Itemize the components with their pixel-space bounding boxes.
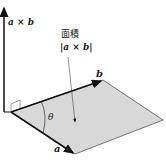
vector-b-label: b [96, 69, 103, 79]
area-title: 面積 [61, 30, 79, 39]
cross-product-diagram: a × b 面積 |a × b| b a θ [0, 0, 166, 167]
vector-a-label: a [54, 144, 60, 154]
cross-product-label: a × b [8, 18, 34, 27]
parallelogram [11, 80, 163, 154]
angle-label: θ [48, 113, 53, 122]
right-angle-marker [11, 100, 20, 108]
area-expression: |a × b| [60, 43, 92, 52]
